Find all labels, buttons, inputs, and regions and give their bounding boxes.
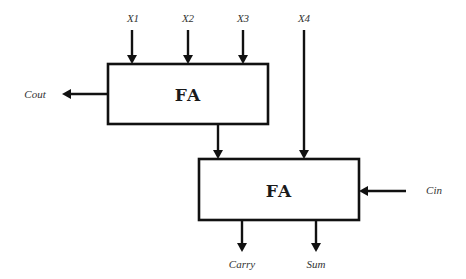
- arrow-fa2-to-carry: [237, 220, 247, 252]
- full-adder-diagram: X1 X2 X3 X4 FA Cout FA: [0, 0, 466, 279]
- arrow-fa1-to-fa2: [213, 124, 223, 159]
- arrow-fa2-to-sum: [311, 220, 321, 252]
- output-label-carry: Carry: [229, 258, 255, 270]
- input-label-x4: X4: [297, 12, 311, 24]
- full-adder-block-1: FA: [108, 64, 268, 124]
- output-label-cout: Cout: [24, 88, 46, 100]
- input-label-x1: X1: [126, 12, 139, 24]
- arrow-x3-to-fa1: [238, 30, 248, 64]
- input-label-cin: Cin: [426, 184, 442, 196]
- output-label-sum: Sum: [307, 258, 326, 270]
- input-label-x3: X3: [236, 12, 250, 24]
- arrow-cin-to-fa2: [359, 186, 406, 196]
- block-label-fa1: FA: [175, 85, 201, 105]
- full-adder-block-2: FA: [199, 159, 359, 220]
- arrow-x1-to-fa1: [127, 30, 137, 64]
- arrow-fa1-to-cout: [62, 89, 108, 99]
- arrow-x2-to-fa1: [183, 30, 193, 64]
- input-label-x2: X2: [181, 12, 195, 24]
- block-label-fa2: FA: [266, 181, 292, 201]
- arrow-x4-to-fa2: [299, 30, 309, 159]
